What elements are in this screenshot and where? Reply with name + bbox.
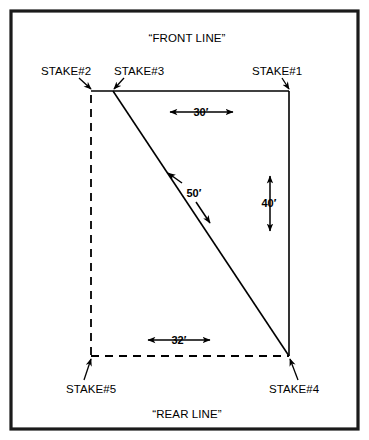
front-line-caption: “FRONT LINE” [148, 32, 225, 44]
diagram-canvas: 30′ 40′ 50′ 32′ STAKE#2 STAKE#3 STAKE#1 … [0, 0, 369, 440]
stake-4-label: STAKE#4 [269, 383, 320, 395]
leader-stake-2 [79, 78, 91, 89]
dimension-50-label: 50′ [186, 187, 201, 199]
leader-stake-5 [84, 359, 91, 380]
stake-2-label: STAKE#2 [41, 65, 91, 77]
rear-line-caption: “REAR LINE” [152, 408, 222, 420]
leader-stake-4 [290, 359, 298, 380]
survey-stake-diagram: 30′ 40′ 50′ 32′ STAKE#2 STAKE#3 STAKE#1 … [0, 0, 369, 440]
leader-stake-3 [114, 78, 124, 89]
stake-5-label: STAKE#5 [66, 383, 116, 395]
dimension-40-label: 40′ [261, 197, 276, 209]
dimension-30-label: 30′ [193, 106, 208, 118]
stake-3-label: STAKE#3 [114, 65, 164, 77]
leader-stake-1 [282, 78, 289, 89]
stake-1-label: STAKE#1 [252, 65, 302, 77]
dimension-32-label: 32′ [171, 334, 186, 346]
diagonal-boundary-line [113, 91, 289, 356]
